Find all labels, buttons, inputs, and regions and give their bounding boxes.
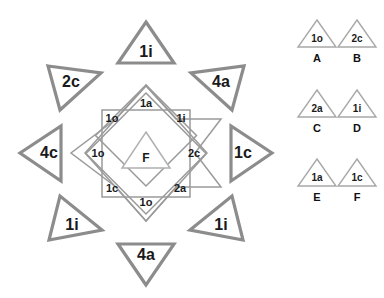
legend-item-c: 2a C <box>298 90 336 134</box>
outer-triangle-top-label: 1i <box>139 43 152 60</box>
star-label-top-right: 1i <box>176 112 185 124</box>
legend-code-f: 1c <box>351 172 363 183</box>
outer-triangle-right: 1c <box>231 126 272 181</box>
outer-triangle-bottom-label: 4a <box>137 246 155 263</box>
legend-code-d: 1i <box>353 103 362 114</box>
legend-code-b: 2c <box>351 33 363 44</box>
legend-item-f: 1c F <box>338 159 376 203</box>
outer-triangle-bottom-right-label: 1i <box>214 216 227 233</box>
star-label-bottom: 1o <box>140 196 153 208</box>
legend-key-a: A <box>313 52 321 64</box>
outer-triangle-right-label: 1c <box>234 144 252 161</box>
star-label-right: 2c <box>188 147 200 159</box>
legend-item-a: 1o A <box>298 20 336 64</box>
outer-triangle-left-label: 4c <box>40 144 58 161</box>
outer-triangle-bottom: 4a <box>118 244 174 285</box>
legend-key-b: B <box>353 52 361 64</box>
star-label-top-left: 1o <box>106 112 119 124</box>
legend-item-b: 2c B <box>338 20 376 64</box>
outer-triangle-top-left-label: 2c <box>62 73 80 90</box>
legend-key-f: F <box>354 191 361 203</box>
outer-triangle-left: 4c <box>20 126 61 181</box>
legend-key-e: E <box>313 191 320 203</box>
legend-code-a: 1o <box>311 33 323 44</box>
outer-triangle-top-left: 2c <box>48 66 101 110</box>
star-label-left: 1o <box>92 147 105 159</box>
legend-key-d: D <box>353 122 361 134</box>
outer-triangle-top-right-label: 4a <box>212 73 230 90</box>
star-label-top: 1a <box>140 97 153 109</box>
triangle-star-diagram: F 1a 1i 2c 2a 1o 1c 1o 1o 1i 4a 1c 1i <box>0 0 384 298</box>
outer-triangle-bottom-right: 1i <box>190 196 243 240</box>
legend-item-d: 1i D <box>338 90 376 134</box>
outer-triangle-top: 1i <box>118 22 174 63</box>
outer-triangle-bottom-left: 1i <box>49 196 102 240</box>
outer-triangle-bottom-left-label: 1i <box>65 216 78 233</box>
legend-item-e: 1a E <box>298 159 336 203</box>
star-label-bottom-right: 2a <box>174 182 187 194</box>
legend: 1o A 2c B 2a C 1i D <box>298 20 376 203</box>
diagram-canvas: F 1a 1i 2c 2a 1o 1c 1o 1o 1i 4a 1c 1i <box>0 0 384 298</box>
legend-key-c: C <box>313 122 321 134</box>
legend-code-e: 1a <box>311 172 323 183</box>
legend-code-c: 2a <box>311 103 323 114</box>
star-label-bottom-left: 1c <box>106 182 118 194</box>
center-triangle-label: F <box>142 151 149 165</box>
outer-triangle-top-right: 4a <box>191 66 244 110</box>
